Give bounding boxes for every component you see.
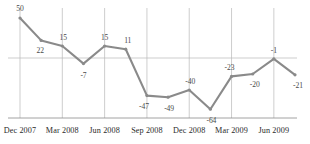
data-value-label: -64 [206,116,216,125]
data-value-label: -40 [185,77,195,86]
data-point-marker [209,108,212,111]
data-value-label: -7 [80,71,86,80]
data-value-label: -23 [225,63,235,72]
data-value-label: 15 [101,33,108,42]
x-tick-label: Mar 2008 [46,126,79,135]
data-value-label: -20 [250,80,260,89]
x-tick-label: Dec 2008 [173,126,205,135]
data-point-marker [188,88,191,91]
series-line-path [20,18,295,109]
data-value-label: 15 [60,33,67,42]
x-tick-label: Mar 2009 [215,126,248,135]
data-point-marker [61,44,64,47]
data-point-marker [166,96,169,99]
data-point-marker [251,72,254,75]
x-tick-label: Jun 2009 [259,126,290,135]
data-value-label: -47 [139,102,149,111]
data-value-label: -49 [164,104,174,113]
data-point-marker [293,73,296,76]
data-point-marker [145,94,148,97]
x-tick-label: Jun 2008 [89,126,120,135]
data-point-marker [82,62,85,65]
data-point-marker [230,75,233,78]
data-value-label: 11 [124,36,131,45]
data-point-marker [40,39,43,42]
data-series-line [20,18,295,109]
data-value-label: -1 [271,46,277,55]
data-point-marker [124,48,127,51]
data-value-label: 50 [16,4,23,13]
data-point-marker [272,57,275,60]
x-tick-label: Dec 2007 [4,126,36,135]
data-value-label: 22 [36,46,43,55]
data-point-marker [103,44,106,47]
chart-plot-area [0,0,310,144]
x-tick-label: Sep 2008 [131,126,163,135]
data-value-label: -21 [293,81,303,90]
line-chart: 502215-71511-47-49-40-64-23-20-1-21 Dec … [0,0,310,144]
data-point-marker [18,16,21,19]
